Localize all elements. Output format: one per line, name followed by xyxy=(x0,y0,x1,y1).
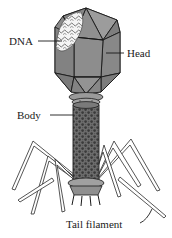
tail-fiber xyxy=(118,177,166,218)
sheath-body xyxy=(73,105,99,182)
phage-illustration: DNA Head Body Tail filament xyxy=(0,0,172,238)
tail-pin xyxy=(81,196,82,206)
tail-pin xyxy=(90,196,91,206)
label-body: Body xyxy=(17,109,41,121)
sheath-top-cap xyxy=(73,102,99,109)
label-tail-filament: Tail filament xyxy=(66,218,122,230)
tail-pin xyxy=(72,195,74,205)
leader-line-tail-filament xyxy=(140,209,152,223)
label-dna: DNA xyxy=(9,35,33,47)
tail-pins xyxy=(72,195,100,206)
bacteriophage-diagram: DNA Head Body Tail filament xyxy=(0,0,172,238)
head-facet xyxy=(74,37,103,77)
tail-sheath xyxy=(73,102,99,182)
tail-pin xyxy=(98,195,100,205)
baseplate-group xyxy=(68,178,104,206)
label-head: Head xyxy=(127,47,151,59)
baseplate xyxy=(70,186,102,195)
